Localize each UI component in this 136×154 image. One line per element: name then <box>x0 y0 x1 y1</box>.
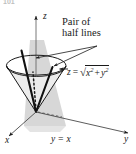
callout-line-2: half lines <box>62 27 101 38</box>
plane-eq-text: y = x <box>51 134 71 144</box>
figure-container: 101 Pair of half lines z x y y = x z=√x2… <box>0 0 136 154</box>
equation-term2-exponent: 2 <box>105 66 108 73</box>
callout-pair-of-half-lines: Pair of half lines <box>62 16 101 39</box>
cone-equation-label: z=√x2+y2 <box>67 64 109 78</box>
radicand: x2+y2 <box>85 65 109 78</box>
equation-lhs: z <box>67 67 71 77</box>
callout-line-1: Pair of <box>62 16 90 27</box>
equation-term1-exponent: 2 <box>90 66 93 73</box>
equation-equals: = <box>73 67 78 77</box>
axis-label-y: y <box>124 134 128 144</box>
equation-plus: + <box>95 68 100 78</box>
axis-label-x: x <box>5 135 9 145</box>
plane-equation-label: y = x <box>51 134 71 144</box>
axis-label-z: z <box>43 11 47 21</box>
page-number: 101 <box>3 0 15 6</box>
